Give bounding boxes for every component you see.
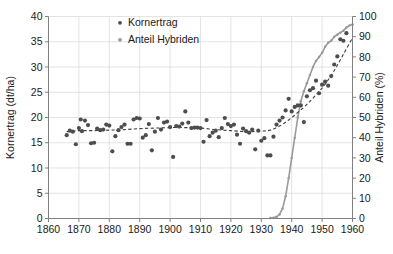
data-point-anteil-hybriden <box>348 24 351 27</box>
yield-hybrid-chart: 0510152025303540010203040506070809010018… <box>0 0 393 254</box>
data-point-anteil-hybriden <box>324 46 327 49</box>
data-point-kornertrag <box>116 128 120 132</box>
data-point-kornertrag <box>74 142 78 146</box>
data-point-kornertrag <box>201 140 205 144</box>
y-axis-right-tick-label: 40 <box>359 131 371 143</box>
data-point-kornertrag <box>180 121 184 125</box>
data-point-kornertrag <box>147 122 151 126</box>
data-point-kornertrag <box>208 134 212 138</box>
data-point-kornertrag <box>220 126 224 130</box>
y-axis-right-tick-label: 80 <box>359 51 371 63</box>
legend-marker-kornertrag <box>118 21 122 25</box>
data-point-anteil-hybriden <box>333 35 336 38</box>
data-point-anteil-hybriden <box>339 31 342 34</box>
data-point-anteil-hybriden <box>300 100 303 103</box>
data-point-kornertrag <box>332 62 336 66</box>
data-point-kornertrag <box>101 128 105 132</box>
y-axis-right-tick-label: 70 <box>359 71 371 83</box>
y-axis-left-tick-label: 10 <box>31 162 43 174</box>
data-point-kornertrag <box>79 117 83 121</box>
x-axis-tick-label: 1860 <box>37 223 61 235</box>
x-axis-tick-label: 1930 <box>250 223 274 235</box>
data-point-kornertrag <box>271 135 275 139</box>
data-point-kornertrag <box>92 141 96 145</box>
data-point-kornertrag <box>217 135 221 139</box>
y-axis-left-title: Kornertrag (dt/ha) <box>4 76 16 159</box>
data-point-kornertrag <box>159 128 163 132</box>
data-point-kornertrag <box>299 103 303 107</box>
data-point-kornertrag <box>284 108 288 112</box>
x-axis-tick-label: 1920 <box>219 223 243 235</box>
data-point-kornertrag <box>238 142 242 146</box>
x-axis-tick-label: 1880 <box>98 223 122 235</box>
data-point-kornertrag <box>320 83 324 87</box>
data-point-kornertrag <box>277 118 281 122</box>
data-point-kornertrag <box>204 118 208 122</box>
y-axis-left-tick-label: 25 <box>31 86 43 98</box>
x-axis-tick-label: 1890 <box>128 223 152 235</box>
data-point-anteil-hybriden <box>293 136 296 139</box>
x-axis-tick-label: 1950 <box>310 223 334 235</box>
y-axis-left-tick-label: 30 <box>31 61 43 73</box>
data-point-kornertrag <box>287 97 291 101</box>
data-point-kornertrag <box>77 126 81 130</box>
y-axis-right-tick-label: 60 <box>359 91 371 103</box>
x-axis-tick-label: 1910 <box>189 223 213 235</box>
data-point-kornertrag <box>268 153 272 157</box>
x-axis-tick-label: 1900 <box>158 223 182 235</box>
data-point-anteil-hybriden <box>297 116 300 119</box>
data-point-kornertrag <box>335 54 339 58</box>
y-axis-left-tick-label: 15 <box>31 136 43 148</box>
data-point-anteil-hybriden <box>278 213 281 216</box>
data-point-kornertrag <box>326 84 330 88</box>
data-point-kornertrag <box>341 39 345 43</box>
data-point-anteil-hybriden <box>306 82 309 85</box>
data-point-kornertrag <box>128 142 132 146</box>
data-point-kornertrag <box>86 123 90 127</box>
y-axis-right-tick-label: 20 <box>359 172 371 184</box>
y-axis-left-tick-label: 20 <box>31 111 43 123</box>
chart-container: 0510152025303540010203040506070809010018… <box>0 0 393 254</box>
y-axis-right-tick-label: 100 <box>359 10 377 22</box>
data-point-kornertrag <box>156 116 160 120</box>
data-point-anteil-hybriden <box>284 195 287 198</box>
y-axis-right-tick-label: 30 <box>359 152 371 164</box>
data-point-anteil-hybriden <box>315 60 318 63</box>
data-point-anteil-hybriden <box>336 33 339 36</box>
y-axis-right-tick-label: 10 <box>359 192 371 204</box>
data-point-anteil-hybriden <box>318 56 321 59</box>
data-point-kornertrag <box>80 129 84 133</box>
data-point-anteil-hybriden <box>281 207 284 210</box>
data-point-kornertrag <box>323 80 327 84</box>
data-point-kornertrag <box>235 133 239 137</box>
data-point-kornertrag <box>183 109 187 113</box>
x-axis-tick-label: 1870 <box>67 223 91 235</box>
data-point-anteil-hybriden <box>327 42 330 45</box>
data-point-kornertrag <box>113 134 117 138</box>
series-line-anteil-hybriden <box>270 25 352 219</box>
data-point-kornertrag <box>83 118 87 122</box>
y-axis-right-tick-label: 90 <box>359 30 371 42</box>
legend-marker-anteil-hybriden <box>118 38 122 42</box>
data-point-kornertrag <box>150 148 154 152</box>
data-point-anteil-hybriden <box>321 52 324 55</box>
data-point-kornertrag <box>110 149 114 153</box>
data-point-kornertrag <box>250 128 254 132</box>
data-point-kornertrag <box>171 155 175 159</box>
data-point-kornertrag <box>198 126 202 130</box>
data-point-kornertrag <box>302 120 306 124</box>
data-point-kornertrag <box>256 129 260 133</box>
data-point-anteil-hybriden <box>312 66 315 69</box>
legend-label-kornertrag: Kornertrag <box>128 16 178 28</box>
data-point-anteil-hybriden <box>309 74 312 77</box>
y-axis-left-tick-label: 5 <box>37 187 43 199</box>
data-point-kornertrag <box>311 86 315 90</box>
data-point-kornertrag <box>344 31 348 35</box>
x-axis-tick-label: 1940 <box>280 223 304 235</box>
data-point-kornertrag <box>253 147 257 151</box>
data-point-anteil-hybriden <box>287 177 290 180</box>
data-point-kornertrag <box>274 122 278 126</box>
data-point-kornertrag <box>122 122 126 126</box>
data-point-kornertrag <box>144 133 148 137</box>
data-point-kornertrag <box>165 119 169 123</box>
